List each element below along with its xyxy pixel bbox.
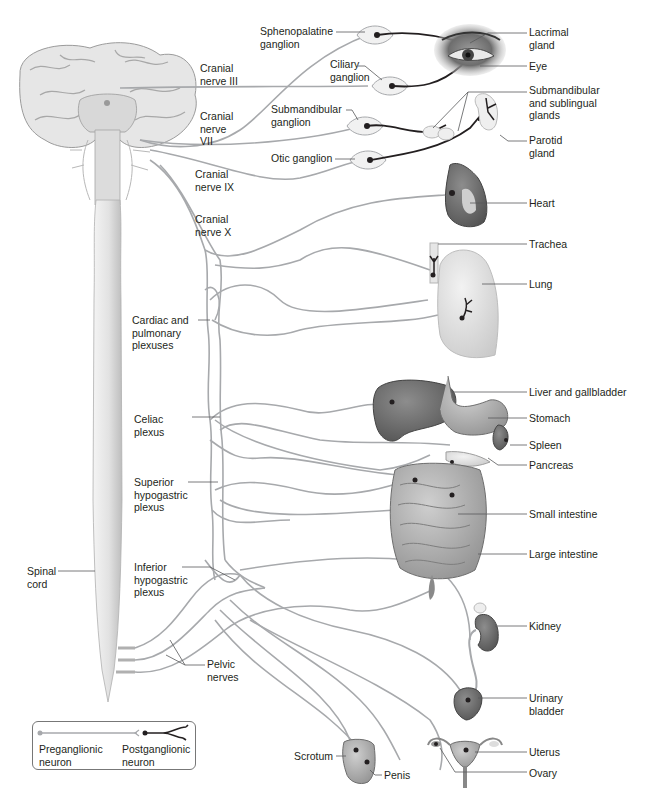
- legend: Preganglionic neuron Postganglionic neur…: [32, 721, 196, 770]
- label-cranial-nerve-x: Cranial nerve X: [195, 213, 231, 238]
- label-lung: Lung: [529, 278, 552, 291]
- legend-postganglionic-label: Postganglionic neuron: [122, 743, 190, 768]
- label-large-intestine: Large intestine: [529, 548, 598, 561]
- heart-illustration: [445, 163, 486, 226]
- label-parotid-gland: Parotid gland: [529, 134, 562, 159]
- digestive-organs: [373, 376, 508, 600]
- label-superior-hypogastric-plexus: Superior hypogastric plexus: [134, 476, 188, 514]
- label-submandibular-sublingual-glands: Submandibular and sublingual glands: [529, 84, 600, 122]
- scrotum-penis-illustration: [343, 739, 375, 783]
- label-uterus: Uterus: [529, 746, 560, 759]
- label-eye: Eye: [529, 60, 547, 73]
- spinal-cord: [93, 200, 135, 702]
- label-sphenopalatine-ganglion: Sphenopalatine ganglion: [260, 25, 333, 50]
- label-ovary: Ovary: [529, 767, 557, 780]
- sphenopalatine-ganglion: [357, 26, 393, 44]
- legend-preganglionic-label: Preganglionic neuron: [39, 743, 103, 768]
- label-scrotum: Scrotum: [294, 750, 333, 763]
- label-otic-ganglion: Otic ganglion: [271, 152, 332, 165]
- label-kidney: Kidney: [529, 620, 561, 633]
- label-spinal-cord: Spinal cord: [27, 565, 56, 590]
- brain: [20, 43, 197, 205]
- label-penis: Penis: [384, 769, 410, 782]
- label-cranial-nerve-iii: Cranial nerve III: [200, 62, 238, 87]
- label-heart: Heart: [529, 197, 555, 210]
- legend-neuron-icons: [33, 722, 195, 742]
- eye-illustration: [434, 24, 506, 76]
- urinary-bladder-illustration: [454, 688, 482, 720]
- label-trachea: Trachea: [529, 238, 567, 251]
- uterus-ovary-illustration: [428, 739, 502, 788]
- label-pelvic-nerves: Pelvic nerves: [207, 658, 239, 683]
- label-pancreas: Pancreas: [529, 459, 573, 472]
- otic-ganglion: [350, 151, 386, 169]
- label-ciliary-ganglion: Ciliary ganglion: [330, 58, 370, 83]
- label-spleen: Spleen: [529, 439, 562, 452]
- label-celiac-plexus: Celiac plexus: [134, 413, 164, 438]
- label-small-intestine: Small intestine: [529, 508, 597, 521]
- parotid-gland: [475, 94, 497, 130]
- label-stomach: Stomach: [529, 412, 570, 425]
- label-submandibular-ganglion: Submandibular ganglion: [271, 103, 342, 128]
- kidney-illustration: [469, 603, 498, 692]
- label-inferior-hypogastric-plexus: Inferior hypogastric plexus: [134, 561, 188, 599]
- label-cardiac-pulmonary-plexuses: Cardiac and pulmonary plexuses: [132, 314, 189, 352]
- label-urinary-bladder: Urinary bladder: [529, 692, 564, 717]
- label-cranial-nerve-ix: Cranial nerve IX: [195, 168, 234, 193]
- ganglia: [347, 26, 408, 169]
- trachea-lung-illustration: [430, 243, 498, 358]
- label-cranial-nerve-vii: Cranial nerve VII: [200, 110, 233, 148]
- label-lacrimal-gland: Lacrimal gland: [529, 26, 569, 51]
- label-liver-gallbladder: Liver and gallbladder: [529, 386, 626, 399]
